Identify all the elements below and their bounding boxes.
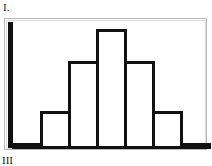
panel-label-bottom: III <box>2 154 13 166</box>
histogram-bar <box>40 111 71 149</box>
histogram-bar <box>12 143 43 149</box>
histogram-bar <box>152 111 183 149</box>
histogram-bar <box>180 143 211 149</box>
histogram-bar <box>68 61 99 149</box>
panel-label-top: I. <box>3 1 9 13</box>
histogram-bar <box>96 29 127 149</box>
histogram-bar <box>124 61 155 149</box>
y-axis-bar <box>8 22 13 148</box>
